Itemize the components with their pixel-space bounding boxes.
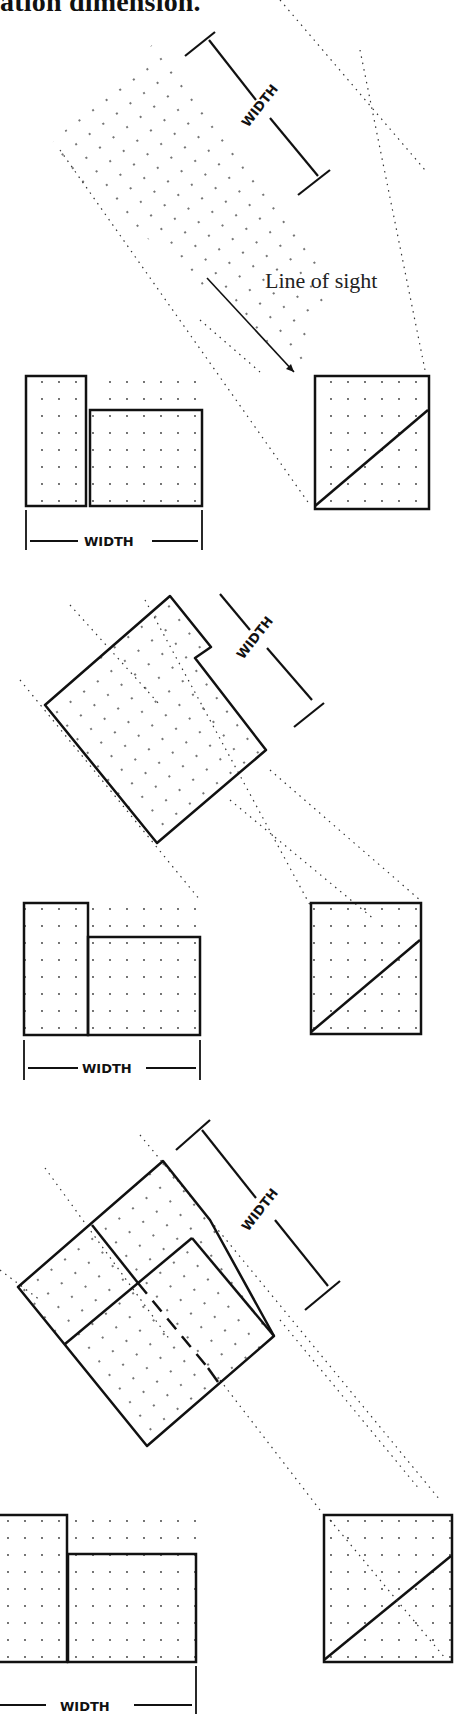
front-view-short-block [90,410,202,506]
front-view-dot-extension [92,900,202,934]
panel-3: WIDTH WIDTH [0,1120,452,1714]
front-width-label: WIDTH [82,1061,132,1076]
front-view-short-block [68,1554,196,1662]
aux-width-dimension [220,594,324,727]
aux-width-label: WIDTH [234,613,276,661]
aux-view-notched-block [45,596,266,843]
panel-2: WIDTH WIDTH [20,594,421,1080]
panel-1: WIDTH WIDTH [26,0,429,550]
side-view-square [311,903,421,1034]
front-width-label: WIDTH [84,534,134,549]
aux-width-label: WIDTH [239,1185,281,1233]
front-view-tall-block [24,903,88,1035]
side-view-square [324,1515,452,1662]
side-view-square [315,376,429,509]
front-width-label: WIDTH [60,1699,110,1714]
front-view-short-block [88,937,200,1035]
orthographic-diagram: WIDTH WIDTH [0,0,456,1714]
projected-dot-field [45,42,330,370]
front-view-tall-block [0,1515,67,1662]
front-view-tall-block [26,376,86,506]
front-view-dot-extension [72,1512,202,1550]
aux-view-stepped-block [18,1161,274,1446]
front-view-dot-extension [94,370,204,404]
